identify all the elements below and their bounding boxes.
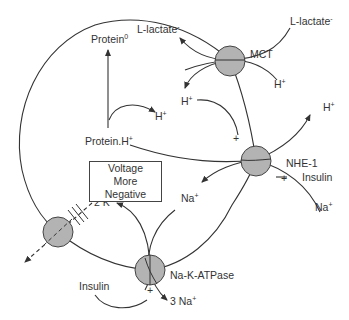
plus-nak: + <box>147 285 153 296</box>
h-outside-nhe-label: H+ <box>323 102 335 113</box>
na-out-nak-label: 3 Na+ <box>170 296 196 307</box>
na-inside-nhe-label: Na+ <box>181 193 199 204</box>
lactate-inside-label: L-lactate- <box>137 24 180 35</box>
voltage-line2: More Negative <box>92 175 159 201</box>
nhe-h-path <box>130 115 310 162</box>
mct-transporter <box>215 46 245 76</box>
h-stim-path <box>197 100 238 135</box>
h-inside-mct-label: H+ <box>181 96 193 107</box>
channel-block-bar-3 <box>76 204 88 219</box>
cell-membrane-right-lower <box>150 160 256 270</box>
protein-h-arrow <box>109 105 155 120</box>
voltage-line1: Voltage <box>92 162 159 175</box>
na-outside-nhe-label: Na+ <box>315 202 333 213</box>
protein0-label: Protein0 <box>91 34 128 45</box>
lactate-outside-label: L-lactate- <box>290 16 333 27</box>
h-outside-mct-label: H+ <box>274 79 286 90</box>
insulin-nak-path <box>95 295 147 308</box>
insulin-nhe-label: Insulin <box>302 172 332 183</box>
nhe-transporter <box>241 146 271 176</box>
voltage-box: Voltage More Negative <box>89 161 162 202</box>
insulin-nak-label: Insulin <box>79 281 109 292</box>
nhe-label: NHE-1 <box>286 158 318 169</box>
plus-nhe-insulin: + <box>281 173 287 184</box>
protein-h-label: Protein.H+ <box>85 136 133 147</box>
mct-label: MCT <box>250 49 273 60</box>
plus-nhe-top: + <box>233 133 239 144</box>
channel-transporter <box>43 217 73 247</box>
h-protein-label: H+ <box>155 111 167 122</box>
nak-label: Na-K-ATPase <box>170 270 234 281</box>
